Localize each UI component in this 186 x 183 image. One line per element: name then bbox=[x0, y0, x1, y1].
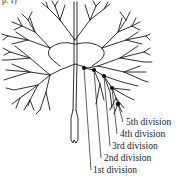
label-4th-division: 4th division bbox=[120, 129, 165, 139]
label-1st-division: 1st division bbox=[93, 165, 137, 175]
branching-diagram: p. 1) 5th division 4th division 3rd divi… bbox=[0, 0, 186, 183]
tree-illustration bbox=[0, 0, 186, 183]
label-5th-division: 5th division bbox=[126, 117, 171, 127]
label-top-fragment: p. 1) bbox=[2, 0, 17, 6]
label-2nd-division: 2nd division bbox=[104, 153, 151, 163]
label-3rd-division: 3rd division bbox=[112, 141, 158, 151]
